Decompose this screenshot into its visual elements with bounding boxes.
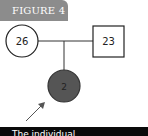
caption-text: The individual (12, 129, 75, 136)
father-node: 23 (93, 26, 124, 57)
child-node: 2 (48, 70, 80, 102)
father-age: 23 (102, 36, 115, 47)
child-age: 2 (61, 82, 67, 92)
proband-arrow-icon (26, 102, 45, 121)
mother-age: 26 (16, 36, 29, 47)
mother-node: 26 (6, 25, 38, 57)
caption-bar: The individual (0, 127, 148, 136)
pedigree-diagram: 26 23 2 (0, 0, 148, 136)
